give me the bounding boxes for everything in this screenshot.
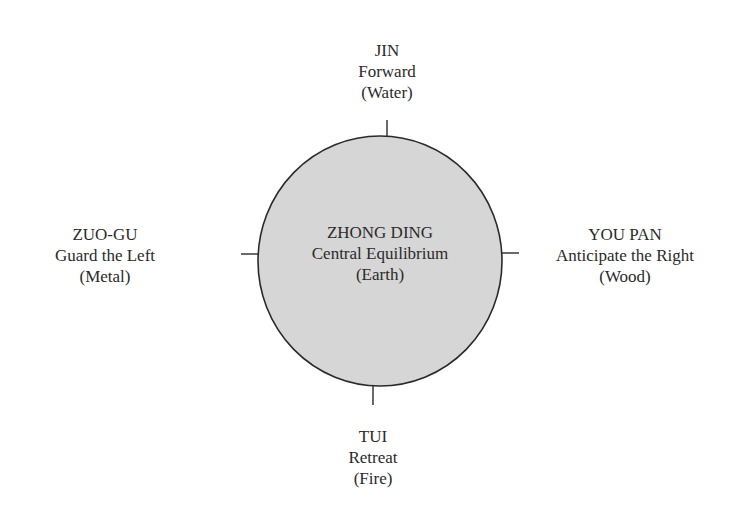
label-zhong-ding-center: ZHONG DING Central Equilibrium (Earth) <box>290 222 470 285</box>
right-meaning: Anticipate the Right <box>525 245 725 266</box>
top-element: (Water) <box>337 82 437 103</box>
label-you-pan-right: YOU PAN Anticipate the Right (Wood) <box>525 224 725 287</box>
left-element: (Metal) <box>20 266 190 287</box>
bottom-meaning: Retreat <box>323 447 423 468</box>
label-tui-retreat: TUI Retreat (Fire) <box>323 426 423 489</box>
left-name: ZUO-GU <box>20 224 190 245</box>
right-element: (Wood) <box>525 266 725 287</box>
left-meaning: Guard the Left <box>20 245 190 266</box>
right-name: YOU PAN <box>525 224 725 245</box>
bottom-element: (Fire) <box>323 468 423 489</box>
center-meaning: Central Equilibrium <box>290 243 470 264</box>
center-element: (Earth) <box>290 264 470 285</box>
label-zuo-gu-left: ZUO-GU Guard the Left (Metal) <box>20 224 190 287</box>
center-name: ZHONG DING <box>290 222 470 243</box>
top-meaning: Forward <box>337 61 437 82</box>
label-jin-forward: JIN Forward (Water) <box>337 40 437 103</box>
bottom-name: TUI <box>323 426 423 447</box>
top-name: JIN <box>337 40 437 61</box>
